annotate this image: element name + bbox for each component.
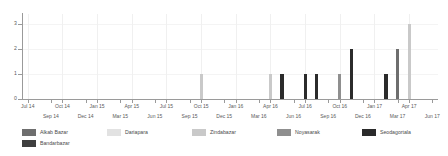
legend-color-swatch xyxy=(22,140,36,147)
x-tick-label: Dec 16 xyxy=(355,114,371,119)
x-tick-label: Jul 16 xyxy=(298,104,311,109)
chart-legend: Alkab BazarDariaparaZindabazarNoyasarakS… xyxy=(22,128,442,150)
x-tick-mark xyxy=(305,100,306,103)
x-tick-label: Dec 14 xyxy=(78,114,94,119)
x-tick-mark xyxy=(201,100,202,103)
y-tick-mark xyxy=(18,24,22,25)
x-tick-label: Jan 17 xyxy=(367,104,382,109)
x-tick-mark xyxy=(190,100,191,103)
x-tick-mark xyxy=(259,100,260,103)
x-tick-mark xyxy=(28,100,29,103)
y-tick-mark xyxy=(18,74,22,75)
x-tick-mark xyxy=(270,100,271,103)
legend-label: Bandarbazar xyxy=(40,140,70,147)
y-tick-mark xyxy=(18,49,22,50)
legend-item[interactable]: Zindabazar xyxy=(192,128,236,137)
x-tick-mark xyxy=(236,100,237,103)
x-tick-mark xyxy=(51,100,52,103)
bar-chart: 0123 Jul 14Oct 14Jan 15Apr 15Jul 15Oct 1… xyxy=(0,0,448,156)
legend-label: Dariapara xyxy=(125,129,148,136)
legend-label: Zindabazar xyxy=(210,129,236,136)
x-tick-mark xyxy=(432,100,433,103)
legend-item[interactable]: Alkab Bazar xyxy=(22,128,68,137)
x-tick-mark xyxy=(224,100,225,103)
legend-item[interactable]: Bandarbazar xyxy=(22,139,70,148)
legend-label: Noyasarak xyxy=(295,129,320,136)
legend-row: Bandarbazar xyxy=(22,139,442,150)
y-tick-mark xyxy=(18,99,22,100)
x-tick-label: Dec 15 xyxy=(216,114,232,119)
legend-row: Alkab BazarDariaparaZindabazarNoyasarakS… xyxy=(22,128,442,139)
x-tick-mark xyxy=(363,100,364,103)
x-tick-mark xyxy=(132,100,133,103)
x-tick-label: Oct 16 xyxy=(332,104,347,109)
legend-item[interactable]: Seodagortala xyxy=(362,128,411,137)
x-tick-mark xyxy=(86,100,87,103)
legend-color-swatch xyxy=(22,129,36,136)
legend-label: Seodagortala xyxy=(380,129,411,136)
x-tick-label: Oct 15 xyxy=(194,104,209,109)
x-tick-label: Apr 17 xyxy=(402,104,417,109)
legend-item[interactable]: Noyasarak xyxy=(277,128,320,137)
x-tick-label: Sep 15 xyxy=(182,114,198,119)
x-tick-label: Apr 15 xyxy=(124,104,139,109)
legend-color-swatch xyxy=(192,129,206,136)
x-tick-label: Jul 15 xyxy=(160,104,173,109)
legend-label: Alkab Bazar xyxy=(40,129,68,136)
x-tick-label: Mar 16 xyxy=(251,114,267,119)
x-tick-mark xyxy=(62,100,63,103)
x-tick-label: Jan 15 xyxy=(90,104,105,109)
x-tick-label: Sep 16 xyxy=(320,114,336,119)
x-tick-label: Jan 16 xyxy=(228,104,243,109)
x-tick-mark xyxy=(409,100,410,103)
x-tick-label: Jun 16 xyxy=(286,114,301,119)
x-tick-mark xyxy=(166,100,167,103)
x-tick-label: Oct 14 xyxy=(55,104,70,109)
x-tick-label: Jun 15 xyxy=(147,114,162,119)
x-tick-mark xyxy=(120,100,121,103)
legend-item[interactable]: Dariapara xyxy=(107,128,148,137)
x-tick-label: Mar 17 xyxy=(390,114,406,119)
x-tick-label: Jul 14 xyxy=(21,104,34,109)
x-tick-mark xyxy=(155,100,156,103)
x-tick-mark xyxy=(374,100,375,103)
x-tick-mark xyxy=(294,100,295,103)
x-tick-mark xyxy=(398,100,399,103)
x-tick-label: Apr 16 xyxy=(263,104,278,109)
legend-color-swatch xyxy=(362,129,376,136)
x-tick-mark xyxy=(328,100,329,103)
legend-color-swatch xyxy=(107,129,121,136)
legend-color-swatch xyxy=(277,129,291,136)
x-tick-mark xyxy=(97,100,98,103)
x-tick-label: Sep 14 xyxy=(43,114,59,119)
x-tick-label: Mar 15 xyxy=(112,114,128,119)
x-tick-label: Jun 17 xyxy=(425,114,440,119)
x-tick-mark xyxy=(340,100,341,103)
